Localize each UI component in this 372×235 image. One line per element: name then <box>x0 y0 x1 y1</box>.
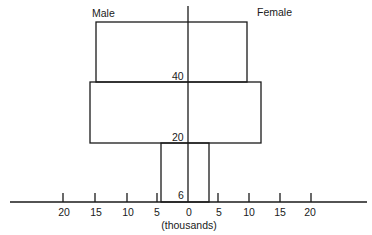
svg-text:15: 15 <box>274 206 286 218</box>
legend-male: Male <box>92 7 115 19</box>
age-label-40: 40 <box>172 70 184 82</box>
svg-text:5: 5 <box>154 206 160 218</box>
x-axis-ticks <box>63 193 311 202</box>
svg-text:5: 5 <box>216 206 222 218</box>
population-pyramid-chart: Male Female 40 20 6 20 15 10 5 0 5 10 15… <box>0 0 372 235</box>
svg-text:10: 10 <box>243 206 255 218</box>
svg-text:0: 0 <box>186 206 192 218</box>
svg-text:10: 10 <box>122 206 134 218</box>
svg-text:20: 20 <box>304 206 316 218</box>
age-label-6: 6 <box>178 189 184 201</box>
svg-text:20: 20 <box>58 206 70 218</box>
svg-text:15: 15 <box>90 206 102 218</box>
bar-age-6-20 <box>161 143 209 202</box>
legend-female: Female <box>257 6 292 18</box>
x-axis-label: (thousands) <box>161 219 216 231</box>
x-tick-labels: 20 15 10 5 0 5 10 15 20 <box>58 206 316 218</box>
age-label-20: 20 <box>172 131 184 143</box>
